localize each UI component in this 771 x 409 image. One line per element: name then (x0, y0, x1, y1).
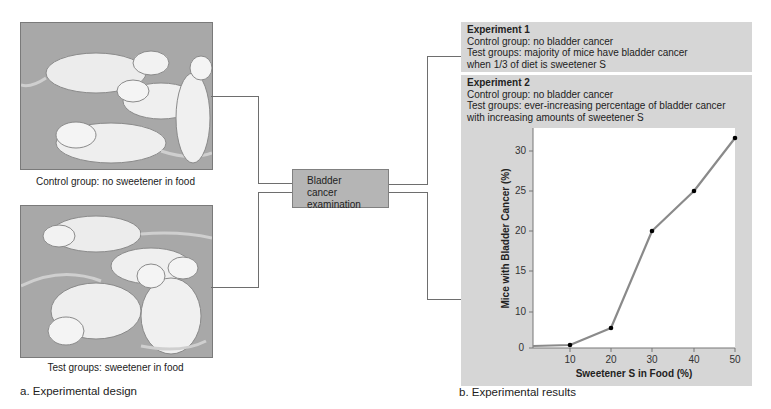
y-tick-label: 10 (512, 306, 526, 317)
connector-line (258, 192, 259, 288)
x-tick-label: 20 (601, 354, 621, 365)
connector-line (258, 96, 259, 184)
center-box-line1: Bladder cancer (307, 175, 374, 199)
connector-line (427, 56, 428, 185)
panel-a-label: a. Experimental design (20, 385, 137, 397)
mice-illustration-test-icon (21, 206, 212, 357)
y-tick-label: 25 (512, 185, 526, 196)
experiment-1-line1: Control group: no bladder cancer (467, 36, 746, 48)
connector-line (258, 183, 292, 184)
control-group-image (20, 22, 213, 170)
experiment-1-title: Experiment 1 (467, 24, 746, 36)
experiment-2-line3: with increasing amounts of sweetener S (467, 112, 746, 124)
y-tick-label: 30 (512, 145, 526, 156)
chart-plot-area (533, 128, 735, 348)
experiment-1-line2: Test groups: majority of mice have bladd… (467, 47, 746, 59)
experiment-2-line2: Test groups: ever-increasing percentage … (467, 100, 746, 112)
connector-line (427, 56, 461, 57)
connector-line (427, 192, 428, 300)
center-box-line2: examination (307, 199, 374, 211)
y-tick-label: 0 (512, 342, 524, 353)
connector-line (427, 299, 461, 300)
x-tick-label: 30 (642, 354, 662, 365)
connector-line (258, 192, 292, 193)
test-group-image (20, 205, 213, 358)
experiment-2-title: Experiment 2 (467, 77, 746, 89)
panel-b-label: b. Experimental results (459, 386, 576, 398)
y-axis-title: Mice with Bladder Cancer (%) (500, 164, 511, 314)
connector-line (211, 287, 259, 288)
experiment-1-line3: when 1/3 of diet is sweetener S (467, 59, 746, 71)
connector-line (389, 184, 427, 185)
x-tick-label: 40 (684, 354, 704, 365)
connector-line (389, 192, 427, 193)
y-tick-label: 20 (512, 225, 526, 236)
control-group-caption: Control group: no sweetener in food (20, 176, 211, 187)
experiment-2-line1: Control group: no bladder cancer (467, 89, 746, 101)
x-tick-label: 10 (560, 354, 580, 365)
mice-illustration-control-icon (21, 23, 212, 169)
x-tick-label: 50 (725, 354, 745, 365)
connector-line (211, 96, 258, 97)
test-group-caption: Test groups: sweetener in food (20, 362, 211, 373)
bladder-cancer-examination-box: Bladder cancer examination (292, 169, 389, 208)
experiment-1-box: Experiment 1 Control group: no bladder c… (461, 22, 752, 72)
y-tick-label: 15 (512, 265, 526, 276)
x-axis-title: Sweetener S in Food (%) (533, 368, 735, 379)
